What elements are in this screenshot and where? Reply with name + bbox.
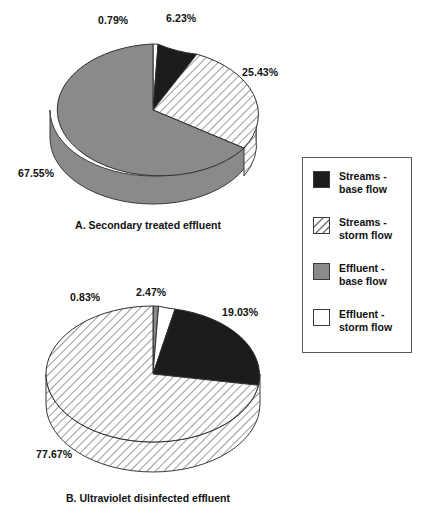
legend-label-streams-storm-flow: Streams - storm flow	[339, 216, 392, 241]
chart-b-label-effluent-base-flow: 0.83%	[70, 291, 100, 303]
chart-legend: Streams - base flow Streams - storm flow…	[302, 157, 412, 353]
legend-swatch-hatch-icon	[313, 217, 330, 234]
legend-swatch-black-icon	[313, 171, 330, 188]
legend-item-streams-base-flow: Streams - base flow	[313, 170, 387, 195]
legend-swatch-white-icon	[313, 309, 330, 326]
chart-a-label-effluent-storm-flow: 0.79%	[98, 14, 128, 26]
legend-swatch-gray-icon	[313, 263, 330, 280]
legend-item-effluent-storm-flow: Effluent - storm flow	[313, 308, 392, 333]
legend-item-streams-storm-flow: Streams - storm flow	[313, 216, 392, 241]
chart-a-label-streams-base-flow: 6.23%	[166, 12, 196, 24]
chart-b-label-effluent-storm-flow: 2.47%	[136, 286, 166, 298]
chart-b: 0.83% 2.47% 19.03% 77.67% B. Ultraviolet…	[0, 278, 296, 515]
figure-pie-charts: 0.79% 6.23% 25.43% 67.55% A. Secondary t…	[0, 0, 422, 515]
chart-a-caption: A. Secondary treated effluent	[0, 219, 296, 231]
legend-label-streams-base-flow: Streams - base flow	[339, 170, 387, 195]
legend-item-effluent-base-flow: Effluent - base flow	[313, 262, 387, 287]
chart-b-label-streams-base-flow: 19.03%	[222, 306, 258, 318]
chart-b-label-streams-storm-flow: 77.67%	[36, 448, 72, 460]
chart-a-label-effluent-base-flow: 67.55%	[18, 167, 54, 179]
legend-label-effluent-storm-flow: Effluent - storm flow	[339, 308, 392, 333]
legend-label-effluent-base-flow: Effluent - base flow	[339, 262, 387, 287]
chart-a-label-streams-storm-flow: 25.43%	[242, 66, 278, 78]
chart-a: 0.79% 6.23% 25.43% 67.55% A. Secondary t…	[0, 0, 296, 245]
chart-b-caption: B. Ultraviolet disinfected effluent	[0, 492, 296, 504]
